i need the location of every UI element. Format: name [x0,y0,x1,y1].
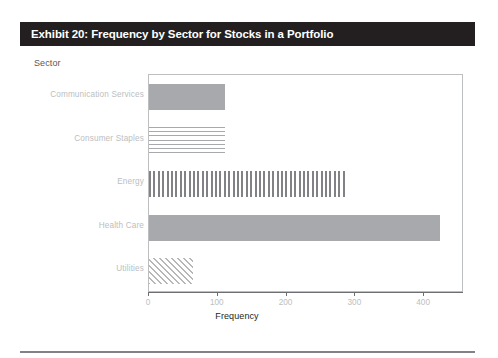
x-tick-label-400: 400 [416,298,430,307]
bars-container [149,75,462,291]
x-axis-title-text: Frequency [215,311,258,321]
y-tick-label-energy: Energy [19,177,144,186]
bar-row-utilities [149,249,193,293]
y-tick-label-utilities: Utilities [19,264,144,273]
bar-energy [149,171,346,197]
y-tick-label-communication-services: Communication Services [19,90,144,99]
exhibit-title-banner: Exhibit 20: Frequency by Sector for Stoc… [20,22,475,46]
x-tick-label-300: 300 [348,298,362,307]
x-tick-mark-400 [423,292,424,296]
bar-row-energy [149,162,346,206]
x-axis-title: Frequency [0,311,498,321]
y-tick-label-health-care: Health Care [19,221,144,230]
y-axis-group-caption: Sector [34,58,61,68]
x-tick-label-200: 200 [279,298,293,307]
bar-row-communication-services [149,75,225,119]
chart-plot-area [148,74,463,292]
y-tick-label-consumer-staples: Consumer Staples [19,134,144,143]
bar-health-care [149,215,440,241]
bar-utilities [149,258,193,284]
footer-divider [20,351,475,353]
bar-communication-services [149,84,225,110]
y-axis-tick-labels: Communication Services Consumer Staples … [18,74,144,292]
x-tick-label-0: 0 [146,298,151,307]
bar-row-consumer-staples [149,119,225,163]
bar-row-health-care [149,206,440,250]
x-axis-line [148,292,463,293]
x-tick-mark-100 [217,292,218,296]
x-tick-mark-200 [286,292,287,296]
x-tick-mark-300 [354,292,355,296]
x-tick-mark-0 [148,292,149,296]
exhibit-title-text: Exhibit 20: Frequency by Sector for Stoc… [20,28,333,40]
x-tick-label-100: 100 [210,298,224,307]
bar-consumer-staples [149,127,225,153]
